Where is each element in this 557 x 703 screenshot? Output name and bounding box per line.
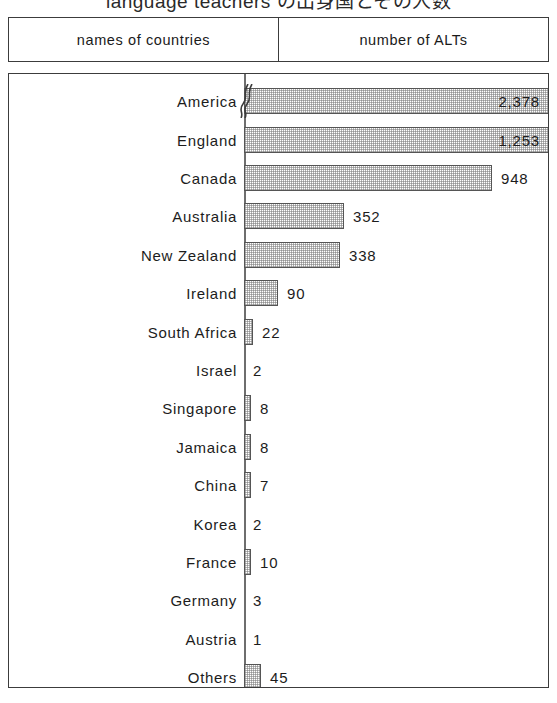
bar (244, 242, 340, 268)
bar (244, 395, 251, 421)
bar-row: Ireland90 (9, 274, 549, 312)
bar-row: China7 (9, 466, 549, 504)
bar-row: England1,253 (9, 120, 549, 158)
bar (244, 203, 344, 229)
bar-row: America2,378 (9, 82, 549, 120)
bar-row-label: England (177, 131, 237, 148)
bar-row: France10 (9, 543, 549, 581)
bar-row-label: China (194, 477, 237, 494)
bar-row-label: Australia (172, 208, 237, 225)
bar-row-label: South Africa (148, 323, 237, 340)
bar (244, 319, 253, 345)
bar-row: Israel2 (9, 351, 549, 389)
bar-value-label: 45 (270, 669, 288, 686)
bar-row: Others45 (9, 658, 549, 688)
bar-value-label: 1 (253, 630, 262, 647)
bar-row: Canada948 (9, 159, 549, 197)
bar (244, 549, 251, 575)
bar-row-label: America (177, 93, 237, 110)
bar-row: Australia352 (9, 197, 549, 235)
bar-value-label: 10 (260, 553, 278, 570)
bar-row: Germany3 (9, 581, 549, 619)
bar-value-label: 2,378 (498, 93, 540, 110)
header-cell-alts: number of ALTs (279, 18, 548, 61)
bar-row: Singapore8 (9, 389, 549, 427)
bar-chart: America2,378England1,253Canada948Austral… (8, 73, 549, 688)
bar-row-label: Germany (170, 592, 237, 609)
chart-title-clipped: language teachers の出身国とその人数 (0, 0, 557, 13)
bar-value-label: 352 (353, 208, 380, 225)
bar-value-label: 1,253 (498, 131, 540, 148)
bar-row: South Africa22 (9, 312, 549, 350)
bar-value-label: 8 (260, 438, 269, 455)
bar (244, 664, 261, 688)
chart-title-text: language teachers の出身国とその人数 (106, 0, 451, 13)
bar-row-label: Israel (196, 361, 237, 378)
bar-row-label: Singapore (162, 400, 237, 417)
bar (244, 434, 251, 460)
bar-row: Austria1 (9, 620, 549, 658)
bar-row-label: Korea (193, 515, 237, 532)
bar-value-label: 90 (287, 285, 305, 302)
bar (244, 165, 492, 191)
bar-row-label: Jamaica (176, 438, 237, 455)
bar-row: New Zealand338 (9, 236, 549, 274)
bar-value-label: 2 (253, 515, 262, 532)
bar-value-label: 7 (260, 477, 269, 494)
bar-row-label: France (186, 553, 237, 570)
bar-value-label: 22 (262, 323, 280, 340)
bar-row: Jamaica8 (9, 428, 549, 466)
bar-row-label: Austria (185, 630, 237, 647)
header-cell-countries: names of countries (9, 18, 279, 61)
bar-row-label: Others (188, 669, 237, 686)
bar-row: Korea2 (9, 504, 549, 542)
bar-value-label: 338 (349, 246, 376, 263)
table-header: names of countries number of ALTs (8, 17, 549, 62)
bar-value-label: 948 (501, 169, 528, 186)
bar-row-label: Ireland (186, 285, 237, 302)
bar-value-label: 3 (253, 592, 262, 609)
bar (244, 472, 251, 498)
bar (244, 280, 278, 306)
bar-value-label: 8 (260, 400, 269, 417)
bar-value-label: 2 (253, 361, 262, 378)
bar-row-label: New Zealand (141, 246, 237, 263)
bar-row-label: Canada (180, 169, 237, 186)
